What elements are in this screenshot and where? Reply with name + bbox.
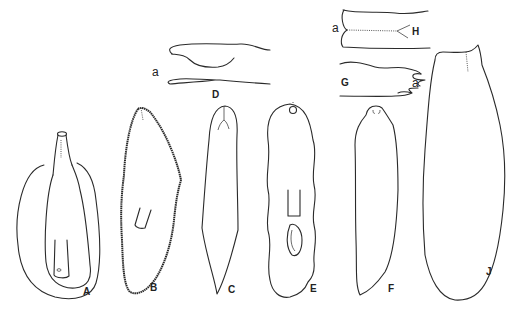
part-label-h-a: a <box>332 22 339 34</box>
panel-label-j: J <box>486 267 492 277</box>
specimen-j-drawing <box>423 45 505 300</box>
panel-label-f: F <box>388 284 394 294</box>
figure: A B C D a E F G a H a J <box>0 0 513 312</box>
specimen-e-drawing <box>267 102 315 297</box>
panel-label-e: E <box>310 284 317 294</box>
specimen-f-drawing <box>355 106 398 295</box>
panel-label-a: A <box>83 287 90 297</box>
figure-drawings <box>0 0 513 312</box>
specimen-d-drawing <box>168 44 270 84</box>
panel-label-d: D <box>212 90 219 100</box>
panel-label-b: B <box>150 283 157 293</box>
panel-label-g: G <box>341 78 349 88</box>
specimen-c-drawing <box>202 106 238 294</box>
part-label-d-a: a <box>152 66 159 78</box>
panel-label-c: C <box>228 285 235 295</box>
specimen-a-drawing <box>17 132 100 299</box>
panel-label-h: H <box>412 27 419 37</box>
part-label-g-a: a <box>412 77 419 89</box>
specimen-b-drawing <box>121 108 181 293</box>
